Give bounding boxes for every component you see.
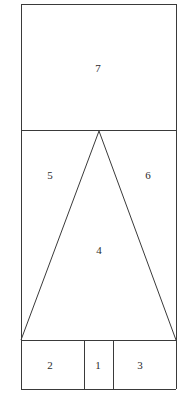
face-label-7: 7 xyxy=(95,63,101,74)
face-label-5: 5 xyxy=(47,170,53,181)
face-label-1: 1 xyxy=(95,360,101,371)
face-label-2: 2 xyxy=(47,360,53,371)
face-label-6: 6 xyxy=(145,170,151,181)
face-region-3 xyxy=(113,340,176,389)
face-label-4: 4 xyxy=(96,245,102,256)
net-diagram-svg xyxy=(0,0,183,402)
diagram-canvas: 7 5 6 4 2 1 3 xyxy=(0,0,183,402)
face-label-3: 3 xyxy=(137,360,143,371)
